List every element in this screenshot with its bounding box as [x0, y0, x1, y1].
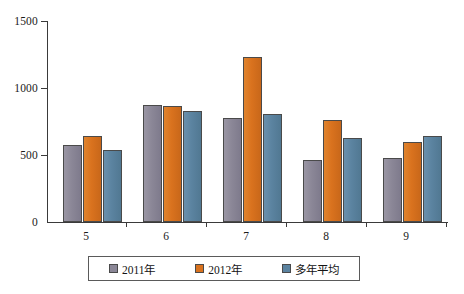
x-axis-tick-mark [446, 222, 447, 227]
x-axis-tick-label-7: 7 [226, 230, 266, 242]
bar-2011年-9 [383, 158, 402, 222]
bar-group-7 [223, 21, 282, 222]
bar-多年平均-9 [423, 136, 442, 222]
x-axis-tick-label-8: 8 [306, 230, 346, 242]
legend-item-2012: 2012年 [195, 261, 242, 277]
y-axis-tick-label-1000: 1000 [0, 82, 38, 94]
bar-多年平均-7 [263, 114, 282, 222]
legend-swatch-icon [195, 264, 204, 273]
legend-swatch-icon [109, 264, 118, 273]
bar-多年平均-6 [183, 111, 202, 222]
x-axis-tick-label-5: 5 [66, 230, 106, 242]
bar-group-8 [303, 21, 362, 222]
legend-label: 多年平均 [295, 261, 339, 277]
y-axis-tick-label-500: 500 [0, 149, 38, 161]
bar-group-6 [143, 21, 202, 222]
x-axis-tick-label-6: 6 [146, 230, 186, 242]
x-axis-line [47, 222, 448, 223]
x-axis-tick-mark [286, 222, 287, 227]
bar-2012年-5 [83, 136, 102, 222]
bar-2012年-6 [163, 106, 182, 222]
bar-2011年-5 [63, 145, 82, 222]
bar-2012年-7 [243, 57, 262, 222]
y-axis-tick-label-0: 0 [0, 216, 38, 228]
bar-2011年-6 [143, 105, 162, 222]
bar-2011年-8 [303, 160, 322, 222]
bar-2012年-8 [323, 120, 342, 222]
bar-group-9 [383, 21, 442, 222]
bar-2011年-7 [223, 118, 242, 222]
legend-label: 2011年 [122, 261, 156, 277]
bar-chart: 1500 1000 500 0 5 6 7 8 9 2011年 2012年 多年… [0, 0, 464, 294]
bar-多年平均-8 [343, 138, 362, 222]
x-axis-tick-label-9: 9 [386, 230, 426, 242]
bar-group-5 [63, 21, 122, 222]
legend-item-2011: 2011年 [109, 261, 156, 277]
legend-label: 2012年 [208, 261, 242, 277]
chart-legend: 2011年 2012年 多年平均 [88, 256, 360, 281]
y-axis-tick-label-1500: 1500 [0, 15, 38, 27]
bar-2012年-9 [403, 142, 422, 222]
x-axis-tick-mark [206, 222, 207, 227]
x-axis-tick-mark [366, 222, 367, 227]
bar-多年平均-5 [103, 150, 122, 222]
legend-swatch-icon [282, 264, 291, 273]
bars-layer [48, 21, 448, 222]
x-axis-tick-mark [126, 222, 127, 227]
legend-item-multiyear-average: 多年平均 [282, 261, 339, 277]
